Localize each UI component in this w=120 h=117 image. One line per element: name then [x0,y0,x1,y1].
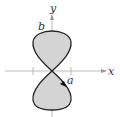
label-a: a [67,74,74,87]
x-axis-arrow-icon [101,69,107,73]
y-axis-label: y [49,2,57,15]
figure-eight-diagram: y x b a [0,0,120,117]
lower-lobe [33,71,71,110]
label-b: b [38,20,45,33]
upper-lobe [33,31,71,71]
x-axis-label: x [108,65,115,78]
